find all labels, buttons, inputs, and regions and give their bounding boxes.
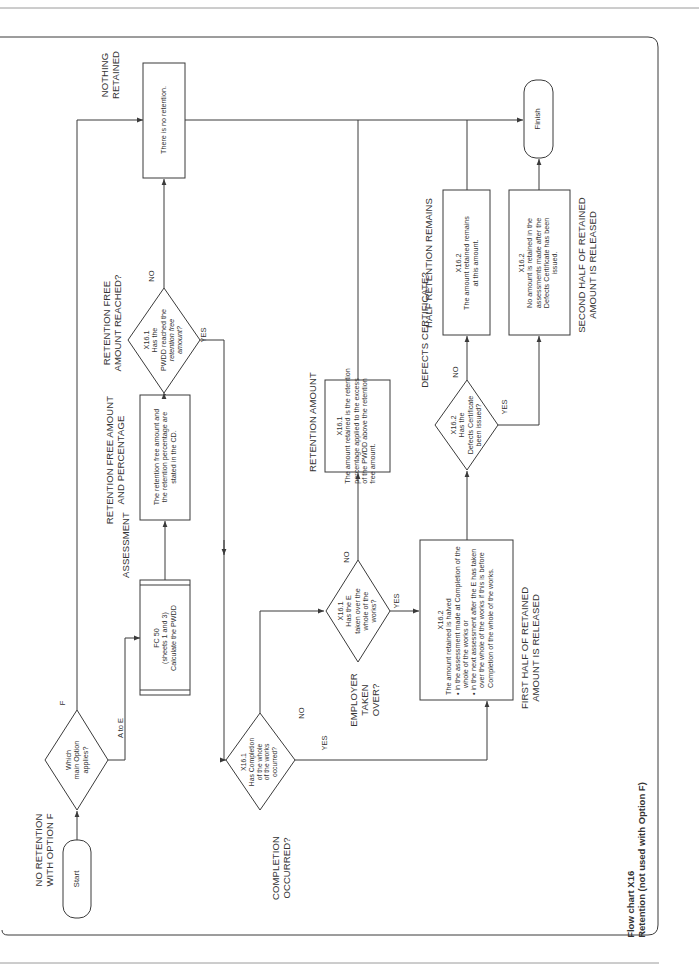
second-half-text: X16.2No amount is retained in theassessm… [518, 218, 559, 308]
heading-nothing-retained: NOTHINGRETAINED [100, 51, 122, 99]
completion-yes-label: YES [321, 735, 330, 750]
heading-employer-taken-over: EMPLOYERTAKENOVER? [349, 673, 382, 727]
retention-free-text: The retention free amount andthe retenti… [153, 409, 178, 506]
heading-amount-reached: RETENTION FREEAMOUNT REACHED? [102, 275, 124, 372]
defects-no-label: NO [452, 366, 461, 377]
defects-question: X16.2Has theDefects Certificatebeen issu… [450, 396, 483, 455]
half-remains-text: X16.2The amount retained remainsat this … [455, 216, 480, 310]
taken-over-no-label: NO [343, 551, 352, 562]
heading-retention-amount: RETENTION AMOUNT [308, 372, 319, 472]
branch-f: F [59, 701, 68, 706]
heading-no-retention-option-f: NO RETENTIONWITH OPTION F [34, 813, 56, 886]
fc50-text: FC 50(sheets 1 and 3)Calculate the PWDD [153, 605, 178, 671]
pwdd-no-label: NO [148, 270, 157, 281]
first-half-text: X16.2 The amount retained is halved • in… [437, 545, 495, 695]
main-option-question: Whichmain Optionapplies? [65, 741, 90, 780]
retention-amount-text: X16.1 The amount retained is the retenti… [336, 368, 377, 483]
heading-completion-occurred: COMPLETIONOCCURRED? [271, 836, 293, 900]
completion-question: X16.1Has Completionof the wholeof the wo… [240, 738, 279, 786]
frame-border [0, 37, 658, 935]
defects-yes-label: YES [501, 399, 510, 414]
finish-label: Finish [533, 108, 542, 129]
completion-no-label: NO [298, 707, 307, 718]
pwdd-reached-question: X16.1Has thePWDD reached theretention fr… [143, 309, 184, 371]
branch-a-to-e: A to E [117, 718, 126, 738]
start-label: Start [72, 871, 81, 888]
taken-over-yes-label: YES [393, 593, 402, 608]
taken-over-question: X16.1Has the Etaken over thewhole of the… [337, 588, 378, 634]
heading-retention-free-amount: RETENTION FREE AMOUNTAND PERCENTAGE [105, 396, 127, 524]
flowchart-caption: Flow chart X16Retention (not used with O… [626, 782, 648, 938]
heading-first-half-released: FIRST HALF OF RETAINEDAMOUNT IS RELEASED [520, 587, 542, 709]
pwdd-yes-label: YES [200, 327, 209, 342]
heading-half-retention-remains: HALF RETENTION REMAINS [424, 198, 435, 328]
no-retention-text: There is no retention. [160, 86, 168, 154]
heading-second-half-released: SECOND HALF OF RETAINEDAMOUNT IS RELEASE… [577, 197, 599, 333]
